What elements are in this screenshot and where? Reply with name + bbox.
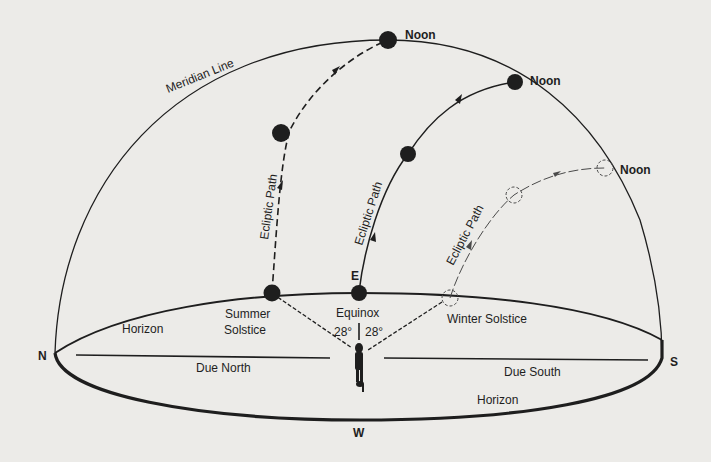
- west-label: W: [353, 426, 365, 440]
- sun-summer-noon: [379, 31, 397, 49]
- angle-left-label: 28°: [334, 325, 352, 339]
- winter-solstice-label: Winter Solstice: [447, 312, 527, 326]
- ecliptic-equinox-label: Ecliptic Path: [352, 180, 386, 247]
- due-north-line: [76, 355, 330, 358]
- observer-figure-icon: [355, 343, 364, 392]
- north-label: N: [38, 349, 47, 363]
- summer-solstice-label: Summer Solstice: [224, 307, 274, 337]
- meridian-line-label: Meridian Line: [164, 56, 236, 96]
- arrow-icon: [455, 94, 462, 104]
- sun-equinox-rise: [351, 285, 367, 301]
- noon-summer-label: Noon: [405, 28, 436, 42]
- angle-right-label: 28°: [365, 325, 383, 339]
- due-south-line: [384, 358, 648, 360]
- south-label: S: [670, 355, 678, 369]
- sun-summer-mid: [272, 124, 290, 142]
- arrow-icon: [332, 66, 340, 75]
- sun-equinox-noon: [507, 74, 523, 90]
- ecliptic-path-summer: [272, 40, 388, 292]
- due-north-label: Due North: [196, 361, 251, 375]
- sun-equinox-mid: [400, 146, 416, 162]
- noon-equinox-label: Noon: [530, 74, 561, 88]
- summer-solstice-line1: Summer: [225, 307, 270, 321]
- equinox-label: Equinox: [336, 306, 379, 320]
- celestial-sphere-diagram: Meridian Line Noon Noon Noon Ecliptic Pa…: [0, 0, 711, 462]
- horizon-left-label: Horizon: [122, 322, 163, 336]
- sun-summer-rise: [264, 285, 281, 302]
- east-label: E: [351, 269, 359, 283]
- due-south-label: Due South: [504, 365, 561, 379]
- sight-line-summer: [273, 294, 352, 348]
- noon-winter-label: Noon: [620, 163, 651, 177]
- summer-solstice-line2: Solstice: [224, 323, 266, 337]
- horizon-bottom-label: Horizon: [477, 393, 518, 407]
